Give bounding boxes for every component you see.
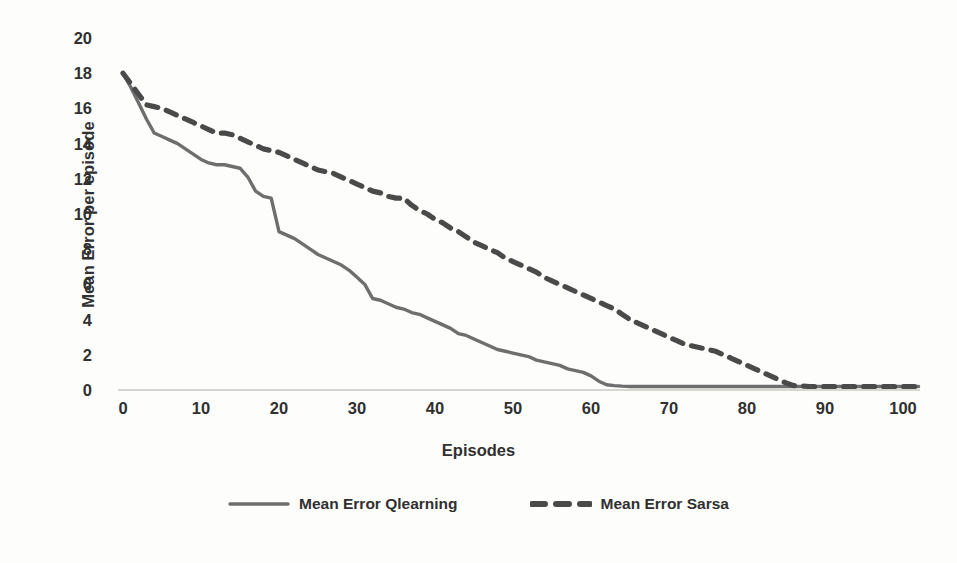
x-tick-label: 80	[717, 400, 777, 417]
x-tick-label: 10	[171, 400, 231, 417]
dashed-line-icon	[530, 498, 592, 510]
x-axis-title: Episodes	[0, 441, 957, 460]
x-tick-label: 0	[93, 400, 153, 417]
x-tick-label: 100	[873, 400, 933, 417]
chart-legend: Mean Error QlearningMean Error Sarsa	[0, 495, 957, 513]
x-tick-label: 30	[327, 400, 387, 417]
x-tick-label: 20	[249, 400, 309, 417]
x-tick-label: 40	[405, 400, 465, 417]
chart-container: Mean Error per episode 02468101214161820…	[0, 0, 957, 563]
x-axis-tick-labels: 0102030405060708090100	[0, 0, 957, 563]
legend-label: Mean Error Sarsa	[601, 495, 729, 513]
x-tick-label: 70	[639, 400, 699, 417]
x-tick-label: 50	[483, 400, 543, 417]
solid-line-icon	[228, 498, 290, 510]
x-tick-label: 90	[795, 400, 855, 417]
legend-item[interactable]: Mean Error Sarsa	[530, 495, 729, 513]
x-tick-label: 60	[561, 400, 621, 417]
legend-item[interactable]: Mean Error Qlearning	[228, 495, 457, 513]
legend-label: Mean Error Qlearning	[299, 495, 457, 513]
